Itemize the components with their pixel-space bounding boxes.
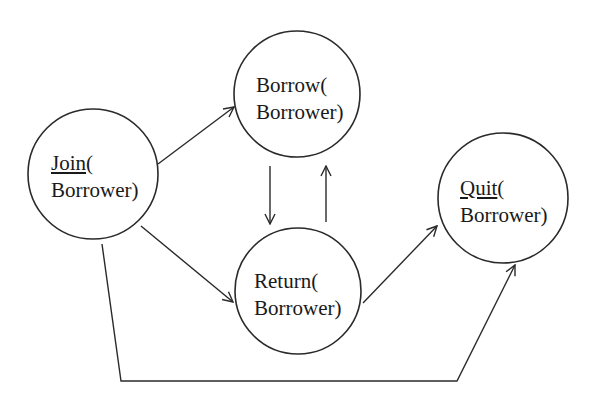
state-borrow-label: Borrow( Borrower) xyxy=(256,72,343,126)
state-quit-param: Borrower) xyxy=(460,203,547,227)
edge-return-to-quit xyxy=(363,226,437,303)
state-quit-name: Quit xyxy=(460,176,497,200)
state-join-label: Join( Borrower) xyxy=(51,150,138,204)
state-borrow-param: Borrower) xyxy=(256,100,343,124)
state-join-param: Borrower) xyxy=(51,178,138,202)
state-join-name: Join xyxy=(51,151,86,175)
state-return-label: Return( Borrower) xyxy=(254,268,341,322)
state-return-name: Return xyxy=(254,269,311,293)
state-borrow-name: Borrow xyxy=(256,73,320,97)
state-return-param: Borrower) xyxy=(254,296,341,320)
edge-join-to-return xyxy=(141,226,233,302)
state-quit-label: Quit( Borrower) xyxy=(460,175,547,229)
edge-join-to-borrow xyxy=(158,107,234,164)
